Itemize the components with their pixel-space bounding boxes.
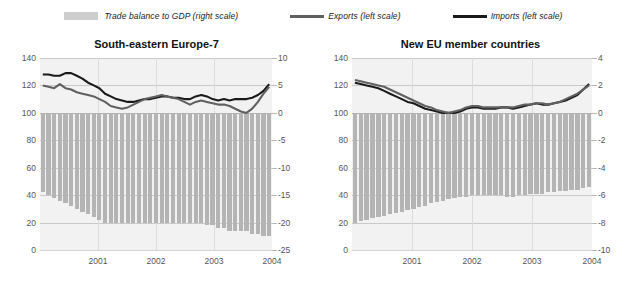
y-axis-tick-label-left: 80 (8, 135, 36, 145)
y-axis-tick-label-right: 10 (278, 53, 306, 63)
x-axis-tick-label: 2002 (452, 256, 492, 266)
y-axis-tick-label-right: 5 (278, 80, 306, 90)
y-axis-tick-label-left: 100 (8, 108, 36, 118)
y-axis-tick-label-right: 2 (598, 80, 626, 90)
axis-baseline (352, 250, 592, 251)
legend-label-imports: Imports (left scale) (491, 11, 563, 21)
y-axis-tick-label-left: 0 (8, 245, 36, 255)
y-axis-tick-label-right: -4 (598, 163, 626, 173)
y-axis-tick-label-left: 0 (320, 245, 348, 255)
legend-item-imports: Imports (left scale) (453, 11, 563, 21)
x-axis-tick-label: 2001 (392, 256, 432, 266)
y-axis-tick-right (592, 168, 597, 169)
line-series-group (352, 58, 592, 250)
line-imports (355, 83, 589, 113)
x-axis-tick-label: 2004 (572, 256, 612, 266)
x-axis-tick-label: 2003 (512, 256, 552, 266)
axis-baseline (40, 250, 272, 251)
plot-area-right (352, 58, 592, 250)
y-axis-tick-label-left: 60 (8, 163, 36, 173)
line-imports (43, 73, 269, 102)
y-axis-tick-label-right: 0 (598, 108, 626, 118)
y-axis-tick-label-left: 140 (320, 53, 348, 63)
y-axis-tick-right (272, 250, 277, 251)
legend-item-trade-balance: Trade balance to GDP (right scale) (64, 11, 238, 21)
y-axis-tick-label-left: 100 (320, 108, 348, 118)
y-axis-tick-label-right: -6 (598, 190, 626, 200)
chart-panel-south-eastern-europe: South-eastern Europe-7 02040608010012014… (4, 38, 309, 283)
y-axis-tick-label-right: -25 (278, 245, 306, 255)
y-axis-tick-right (592, 85, 597, 86)
y-axis-tick-label-left: 120 (8, 80, 36, 90)
page-title-right: New EU member countries (318, 38, 623, 50)
y-axis-tick-label-left: 80 (320, 135, 348, 145)
y-axis-tick-label-right: -2 (598, 135, 626, 145)
y-axis-tick-label-right: -10 (278, 163, 306, 173)
y-axis-tick-right (592, 195, 597, 196)
y-axis-tick-label-left: 120 (320, 80, 348, 90)
x-axis-tick-label: 2004 (252, 256, 292, 266)
y-axis-tick-right (272, 58, 277, 59)
line-swatch-icon-imports (453, 15, 487, 18)
line-swatch-icon-exports (290, 15, 324, 18)
y-axis-tick-label-left: 20 (320, 218, 348, 228)
y-axis-tick-right (272, 113, 277, 114)
y-axis-tick-label-right: 4 (598, 53, 626, 63)
y-axis-tick-label-left: 20 (8, 218, 36, 228)
y-axis-tick-label-left: 40 (8, 190, 36, 200)
legend-label-exports: Exports (left scale) (328, 11, 400, 21)
y-axis-tick-right (592, 223, 597, 224)
y-axis-tick-right (592, 113, 597, 114)
bar-swatch-icon (64, 12, 98, 20)
y-axis-tick-label-left: 140 (8, 53, 36, 63)
y-axis-tick-label-right: -8 (598, 218, 626, 228)
x-axis-tick-label: 2002 (136, 256, 176, 266)
y-axis-tick-right (592, 140, 597, 141)
y-axis-tick-label-right: -20 (278, 218, 306, 228)
y-axis-tick-label-right: 0 (278, 108, 306, 118)
legend-item-exports: Exports (left scale) (290, 11, 400, 21)
chart-legend: Trade balance to GDP (right scale) Expor… (0, 9, 627, 23)
y-axis-tick-label-left: 60 (320, 163, 348, 173)
y-axis-tick-right (272, 140, 277, 141)
y-axis-tick-label-right: -5 (278, 135, 306, 145)
figure-canvas: Trade balance to GDP (right scale) Expor… (0, 0, 627, 288)
y-axis-tick-right (592, 250, 597, 251)
y-axis-tick-right (272, 168, 277, 169)
page-title-left: South-eastern Europe-7 (4, 38, 309, 50)
y-axis-tick-right (272, 195, 277, 196)
y-axis-tick-right (272, 223, 277, 224)
line-series-group (40, 58, 272, 250)
x-axis-tick-label: 2001 (78, 256, 118, 266)
x-axis-tick-label: 2003 (194, 256, 234, 266)
y-axis-tick-label-right: -10 (598, 245, 626, 255)
y-axis-tick-right (272, 85, 277, 86)
chart-panel-new-eu-members: New EU member countries 0204060801001201… (318, 38, 623, 283)
y-axis-tick-right (592, 58, 597, 59)
y-axis-tick-label-left: 40 (320, 190, 348, 200)
y-axis-tick-label-right: -15 (278, 190, 306, 200)
legend-label-trade-balance: Trade balance to GDP (right scale) (104, 11, 238, 21)
plot-area-left (40, 58, 272, 250)
